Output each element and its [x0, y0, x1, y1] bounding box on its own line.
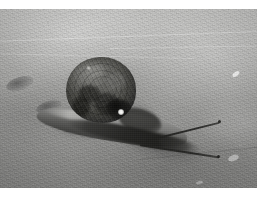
photograph	[0, 9, 257, 188]
image-caption: Black and white photograph of a snail cr…	[0, 0, 1, 1]
snail-tentacle-upper-tip	[218, 120, 221, 123]
shell-specular-highlight	[118, 109, 124, 115]
snail-shell	[66, 57, 136, 123]
screenshot-root: Black and white photograph of a snail cr…	[0, 0, 266, 197]
shell-rim-shading	[66, 57, 136, 123]
shell-secondary-highlight	[86, 66, 91, 70]
image-alt-text: A dark-shelled garden snail seen from th…	[0, 0, 1, 1]
snail-tentacle-lower-tip	[217, 155, 220, 158]
